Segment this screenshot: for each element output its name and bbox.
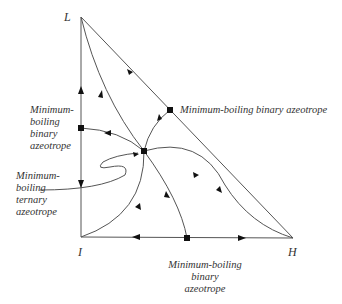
ternary-azeotrope-label: Minimum- boiling ternary azeotrope (16, 170, 60, 218)
curve-ternary-binLH (144, 110, 170, 151)
vertex-label-L: L (64, 10, 71, 25)
arrow-icon (78, 180, 84, 188)
binary-IH-azeotrope-label: Minimum-boiling binary azeotrope (150, 259, 260, 295)
label-line: azeotrope (16, 206, 60, 218)
arrow-icon (78, 86, 84, 94)
label-line: ternary (16, 194, 60, 206)
label-line: binary (150, 271, 260, 283)
arrow-icon (238, 235, 246, 241)
vertex-label-I: I (78, 245, 82, 260)
label-line: Minimum- (30, 104, 74, 116)
ternary-azeotrope-marker (141, 148, 147, 154)
arrow-icon (98, 90, 103, 98)
curve-binLI-ternary (81, 128, 144, 151)
arrow-icon (216, 186, 222, 193)
binary-IH-azeotrope-marker (184, 235, 190, 241)
label-line: azeotrope (30, 140, 74, 152)
vertex-label-H: H (288, 245, 297, 260)
curve-L-ternary (81, 17, 144, 151)
edge-L-H (81, 17, 293, 238)
label-line: binary (30, 128, 74, 140)
binary-LH-azeotrope-label: Minimum-boiling binary azeotrope (180, 104, 327, 116)
label-line: boiling (30, 116, 74, 128)
label-line: Minimum-boiling (150, 259, 260, 271)
curve-ternary-I (81, 151, 144, 237)
arrow-icon (193, 172, 199, 178)
binary-LI-azeotrope-marker (78, 125, 84, 131)
label-line: boiling (16, 182, 60, 194)
arrow-icon (164, 191, 170, 198)
label-line: azeotrope (150, 283, 260, 295)
label-line: Minimum- (16, 170, 60, 182)
binary-LI-azeotrope-label: Minimum- boiling binary azeotrope (30, 104, 74, 152)
binary-LH-azeotrope-marker (167, 107, 173, 113)
arrow-icon (132, 234, 140, 240)
arrow-icon (135, 203, 141, 210)
